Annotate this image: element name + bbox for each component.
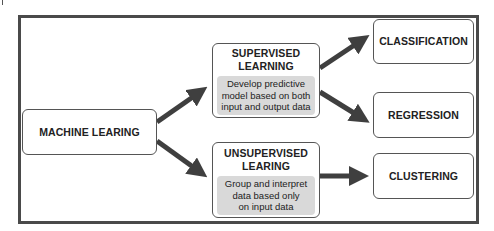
regression-label: REGRESSION [388, 109, 459, 122]
regression-node: REGRESSION [373, 92, 474, 138]
machine-learning-label: MACHINE LEARING [39, 126, 140, 139]
classification-node: CLASSIFICATION [373, 19, 474, 64]
arrow-supervised-to-regression [320, 92, 362, 118]
unsupervised-title-line-1: UNSUPERVISED [224, 147, 308, 160]
unsupervised-learning-node: UNSUPERVISED LEARING Group and interpret… [212, 142, 320, 218]
arrow-ml-to-unsupervised [157, 141, 200, 172]
clustering-label: CLUSTERING [389, 170, 458, 183]
classification-label: CLASSIFICATION [379, 35, 468, 48]
supervised-desc-line-3: input and output data [220, 101, 312, 113]
unsupervised-title-line-2: LEARING [242, 160, 290, 173]
supervised-desc-line-2: model based on both [220, 90, 312, 102]
unsupervised-desc-line-3: on input data [220, 201, 312, 213]
unsupervised-desc-line-1: Group and interpret [220, 178, 312, 190]
clustering-node: CLUSTERING [373, 153, 474, 199]
arrow-ml-to-supervised [157, 92, 200, 122]
unsupervised-description: Group and interpret data based only on i… [217, 176, 315, 215]
supervised-learning-node: SUPERVISED LEARNING Develop predictive m… [212, 43, 320, 118]
supervised-desc-line-1: Develop predictive [220, 78, 312, 90]
machine-learning-node: MACHINE LEARING [22, 109, 157, 155]
unsupervised-desc-line-2: data based only [220, 190, 312, 202]
supervised-title-line-2: LEARNING [238, 60, 294, 73]
arrow-supervised-to-classification [320, 40, 362, 68]
supervised-description: Develop predictive model based on both i… [217, 76, 315, 115]
supervised-title-line-1: SUPERVISED [232, 47, 301, 60]
